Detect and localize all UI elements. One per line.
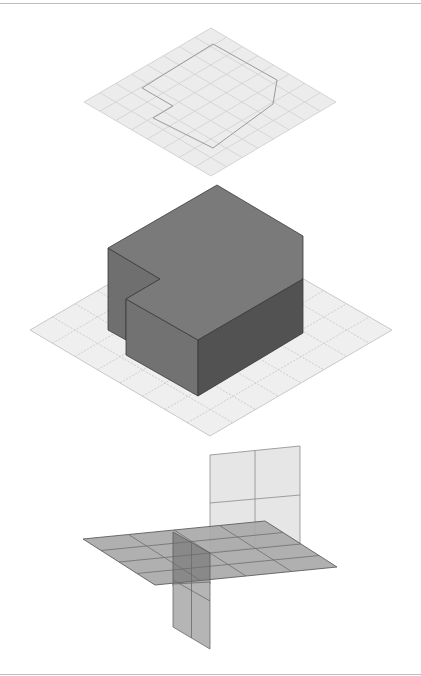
bottom-divider xyxy=(0,674,421,675)
extruded-block-panel xyxy=(30,185,392,436)
diagram-canvas xyxy=(0,0,421,676)
plan-view-panel xyxy=(84,28,336,176)
intersecting-planes-panel xyxy=(83,446,337,649)
